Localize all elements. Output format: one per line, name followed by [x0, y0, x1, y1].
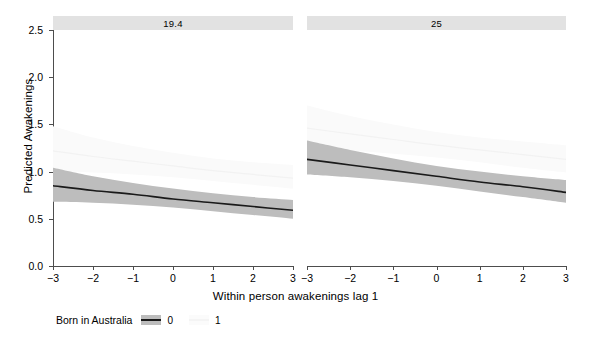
y-axis-tick-label: 1.5 — [9, 118, 43, 130]
x-axis-tick — [253, 266, 254, 270]
x-axis-tick — [350, 266, 351, 270]
facet-strip-left-label: 19.4 — [163, 18, 182, 29]
x-axis-tick — [93, 266, 94, 270]
x-axis-tick — [293, 266, 294, 270]
x-axis-tick — [566, 266, 567, 270]
panel-left — [53, 30, 293, 266]
legend-title: Born in Australia — [56, 314, 132, 326]
x-axis-tick-label: 1 — [470, 272, 490, 284]
facet-strip-right-label: 25 — [431, 18, 442, 29]
x-axis-tick-label: 3 — [556, 272, 576, 284]
chart-figure: Predicted Awakenings Within person awake… — [0, 0, 591, 342]
legend-label-1: 1 — [215, 315, 221, 326]
x-axis-tick — [307, 266, 308, 270]
x-axis-tick-label: 0 — [163, 272, 183, 284]
panel-plot-0 — [53, 30, 293, 266]
x-axis-tick — [393, 266, 394, 270]
x-axis-tick — [437, 266, 438, 270]
x-axis-tick-label: 1 — [203, 272, 223, 284]
x-axis-title: Within person awakenings lag 1 — [0, 290, 591, 302]
x-axis-tick — [173, 266, 174, 270]
legend-key-0-icon — [141, 315, 161, 325]
facet-strip-left: 19.4 — [53, 16, 293, 30]
legend: Born in Australia 0 1 — [56, 311, 237, 329]
y-axis-tick-label: 2.0 — [9, 71, 43, 83]
legend-key-1-icon — [189, 315, 209, 325]
legend-item-1[interactable]: 1 — [189, 315, 221, 326]
x-axis-tick — [213, 266, 214, 270]
x-axis-tick — [523, 266, 524, 270]
x-axis-tick-label: 2 — [513, 272, 533, 284]
panel-right — [307, 30, 566, 266]
legend-label-0: 0 — [167, 315, 173, 326]
facet-strip-right: 25 — [307, 16, 566, 30]
x-axis-tick — [133, 266, 134, 270]
x-axis-tick — [480, 266, 481, 270]
y-axis-tick-label: 0.5 — [9, 213, 43, 225]
y-axis-tick-label: 2.5 — [9, 24, 43, 36]
y-axis-tick-label: 0.0 — [9, 260, 43, 272]
x-axis-tick-label: 0 — [427, 272, 447, 284]
x-axis-tick-label: −2 — [340, 272, 360, 284]
x-axis-tick-label: −3 — [297, 272, 317, 284]
x-axis-tick-label: −1 — [123, 272, 143, 284]
legend-item-0[interactable]: 0 — [141, 315, 173, 326]
y-axis-tick-label: 1.0 — [9, 166, 43, 178]
x-axis-tick-label: 2 — [243, 272, 263, 284]
x-axis-tick — [53, 266, 54, 270]
x-axis-tick-label: −3 — [43, 272, 63, 284]
panel-plot-1 — [307, 30, 566, 266]
x-axis-tick-label: −2 — [83, 272, 103, 284]
x-axis-tick-label: −1 — [383, 272, 403, 284]
